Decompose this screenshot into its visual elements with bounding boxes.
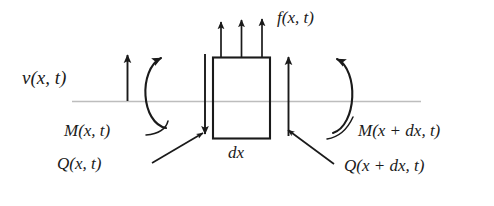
label-moment-right: M(x + dx, t) bbox=[358, 122, 440, 139]
label-element-length: dx bbox=[228, 144, 244, 161]
label-moment-left: M(x, t) bbox=[64, 122, 110, 139]
label-distributed-load: f(x, t) bbox=[277, 9, 314, 26]
leader-line-q-left bbox=[152, 133, 203, 163]
label-transverse-displacement: v(x, t) bbox=[22, 68, 66, 87]
diagram-canvas bbox=[0, 0, 494, 206]
beam-element-box bbox=[213, 58, 270, 139]
label-shear-right: Q(x + dx, t) bbox=[344, 157, 424, 174]
moment-arc-left bbox=[145, 58, 166, 128]
label-shear-left: Q(x, t) bbox=[57, 155, 101, 172]
leader-line-q-right bbox=[288, 130, 334, 164]
beam-element-free-body-diagram: v(x, t) f(x, t) dx M(x, t) Q(x, t) M(x +… bbox=[0, 0, 494, 206]
moment-arc-right bbox=[333, 59, 352, 133]
